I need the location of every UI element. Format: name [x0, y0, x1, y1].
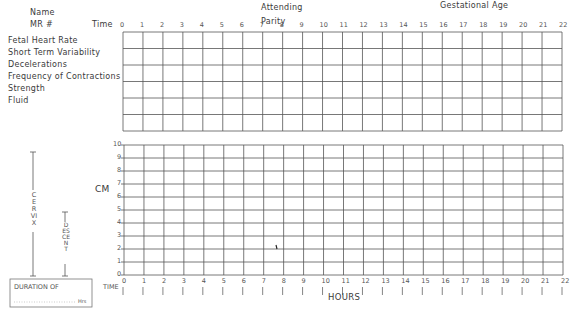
cm-tick: 9 — [117, 153, 121, 161]
hour-tick: 10 — [322, 277, 330, 285]
hour-tick: 1 — [142, 277, 146, 285]
hour-tick: 0 — [122, 277, 126, 285]
cm-tick: 8 — [117, 166, 121, 174]
hour-tick: 4 — [202, 277, 206, 285]
hrs-label: Hrs — [78, 298, 86, 304]
hour-tick: 14 — [401, 277, 409, 285]
hour-tick: 20 — [521, 277, 529, 285]
hour-tick: 13 — [381, 277, 389, 285]
hour-tick: 6 — [242, 277, 246, 285]
cm-tick: 2 — [117, 244, 121, 252]
cm-tick: 1 — [117, 257, 121, 265]
duration-field[interactable] — [14, 293, 76, 303]
time-row-label: TIME — [103, 283, 119, 291]
hour-tick: 8 — [282, 277, 286, 285]
cervix-label: CERVIX — [30, 192, 38, 227]
hour-tick: 19 — [501, 277, 509, 285]
hour-tick: 17 — [461, 277, 469, 285]
hour-tick: 9 — [302, 277, 306, 285]
grid-lines — [0, 0, 572, 319]
hour-tick: 21 — [541, 277, 549, 285]
cm-tick: 0 — [117, 270, 121, 278]
cm-tick: 10 — [113, 140, 121, 148]
hour-tick: 18 — [481, 277, 489, 285]
y-axis-label-cm: CM — [95, 184, 110, 194]
duration-label: DURATION OF — [14, 283, 59, 291]
hour-tick: 15 — [421, 277, 429, 285]
hour-tick: 16 — [441, 277, 449, 285]
hour-tick: 7 — [262, 277, 266, 285]
cm-tick: 6 — [117, 192, 121, 200]
hour-tick: 5 — [222, 277, 226, 285]
cm-tick: 3 — [117, 231, 121, 239]
hour-tick: 3 — [182, 277, 186, 285]
hour-tick: 12 — [361, 277, 369, 285]
x-axis-label-hours: HOURS — [328, 292, 360, 302]
cm-tick: 7 — [117, 179, 121, 187]
hour-tick: 11 — [342, 277, 350, 285]
cm-tick: 4 — [117, 218, 121, 226]
descent-label: DESCENT — [62, 222, 70, 252]
hour-tick: 2 — [162, 277, 166, 285]
cm-tick: 5 — [117, 205, 121, 213]
hour-tick: 22 — [561, 277, 569, 285]
